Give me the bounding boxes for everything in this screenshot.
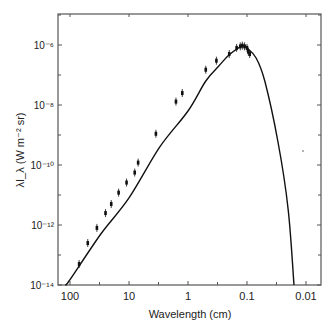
blackbody-curve (65, 45, 294, 285)
x-tick-label: 1 (185, 290, 191, 302)
y-tick-label: 10⁻¹⁴ (30, 280, 54, 291)
data-points (78, 42, 251, 268)
x-tick-label: 100 (61, 290, 79, 302)
chart-svg: 1001010.10.01 10⁻⁶10⁻⁸10⁻¹⁰10⁻¹²10⁻¹⁴ Wa… (0, 0, 332, 326)
cmb-spectrum-chart: 1001010.10.01 10⁻⁶10⁻⁸10⁻¹⁰10⁻¹²10⁻¹⁴ Wa… (0, 0, 332, 326)
x-tick-label: 0.1 (239, 290, 254, 302)
y-tick-label: 10⁻⁶ (34, 40, 54, 51)
stray-dot (302, 150, 304, 152)
y-axis-label: λI_λ (W m⁻² sr) (14, 112, 26, 187)
y-tick-label: 10⁻⁸ (34, 100, 54, 111)
y-tick-label: 10⁻¹² (31, 220, 54, 231)
x-axis-label: Wavelength (cm) (149, 308, 232, 320)
y-axis-ticks: 10⁻⁶10⁻⁸10⁻¹⁰10⁻¹²10⁻¹⁴ (30, 15, 321, 291)
x-tick-label: 10 (123, 290, 135, 302)
plot-frame (58, 14, 321, 285)
x-axis-ticks: 1001010.10.01 (61, 14, 317, 302)
y-tick-label: 10⁻¹⁰ (31, 160, 54, 171)
x-tick-label: 0.01 (295, 290, 316, 302)
